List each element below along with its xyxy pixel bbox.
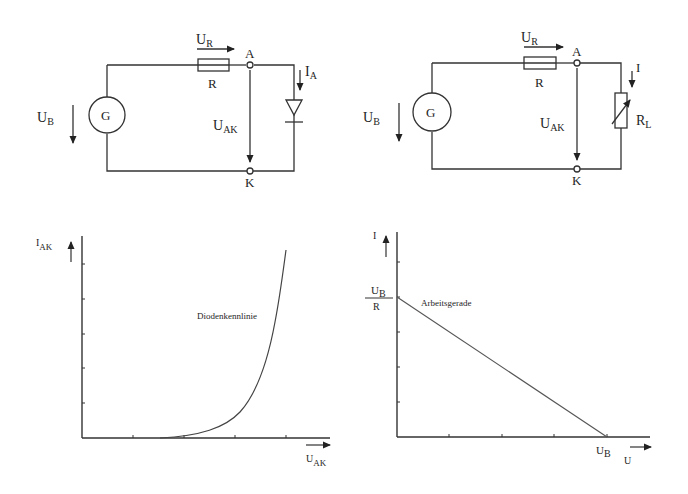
chart-diode-characteristic: IAK UAK Diodenkennlinie <box>36 236 330 468</box>
uak-label: UAK <box>213 118 238 135</box>
current-label: I <box>636 60 640 75</box>
node-k <box>247 168 253 174</box>
circuit-load-labels: G UB UR R A K UAK I RL <box>363 30 651 188</box>
wire <box>432 63 621 169</box>
uak-label: UAK <box>540 116 565 133</box>
node-a <box>247 62 253 68</box>
node-k-label: K <box>245 175 255 190</box>
node-a <box>574 60 580 66</box>
diode-curve <box>160 250 286 438</box>
resistor-label: R <box>535 75 544 90</box>
node-a-label: A <box>572 44 582 59</box>
x-intercept-label: UB <box>596 444 611 459</box>
curve-annotation: Diodenkennlinie <box>197 311 257 321</box>
generator-label: G <box>426 105 435 120</box>
circuit-diode-labels: G UB UR R A K UAK IA <box>37 32 318 190</box>
current-label: IA <box>305 64 318 81</box>
wire <box>107 65 294 171</box>
ur-label: UR <box>196 32 213 49</box>
ub-label: UB <box>363 110 380 127</box>
ub-label: UB <box>37 110 54 127</box>
y-axis-label: IAK <box>36 237 53 252</box>
y-axis-label: I <box>373 230 376 241</box>
node-k <box>574 166 580 172</box>
y-intercept-denominator: R <box>373 301 380 312</box>
diagram-canvas: G UB UR R A K UAK IA G UB UR R A K UAK I… <box>0 0 688 494</box>
load-label: RL <box>636 113 651 130</box>
resistor-label: R <box>208 76 217 91</box>
y-intercept-numerator: UB <box>371 284 386 299</box>
ur-label: UR <box>521 30 538 47</box>
diode-symbol <box>285 100 303 122</box>
load-line <box>397 297 607 437</box>
node-a-label: A <box>245 46 255 61</box>
x-axis-label: U <box>624 455 632 466</box>
generator-label: G <box>101 108 110 123</box>
x-axis-label: UAK <box>306 453 327 468</box>
chart-load-line: I U UB R UB Arbeitsgerade <box>365 230 651 466</box>
node-k-label: K <box>572 173 582 188</box>
variable-resistor-symbol <box>615 93 627 128</box>
line-annotation: Arbeitsgerade <box>421 298 471 308</box>
